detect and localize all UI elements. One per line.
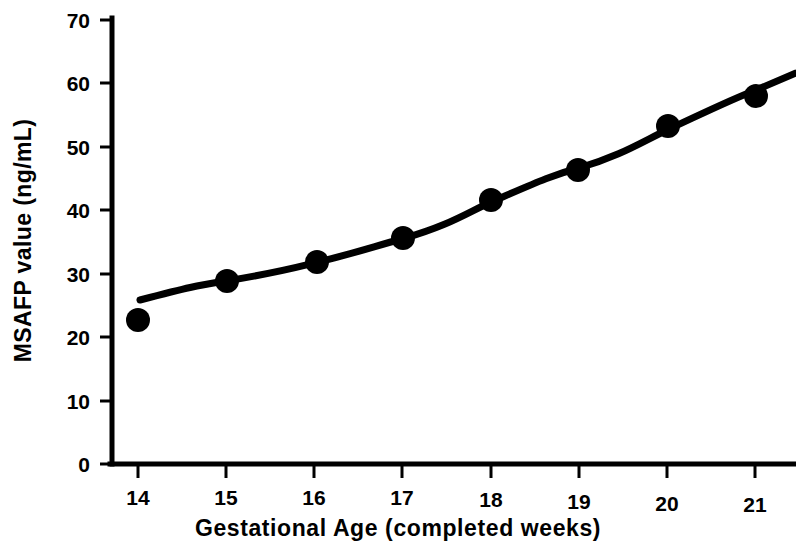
data-point xyxy=(215,269,239,293)
y-tick-label-20: 20 xyxy=(40,327,90,348)
axis-spines xyxy=(110,18,796,464)
y-tick-label-50: 50 xyxy=(40,137,90,158)
x-tick-label-14: 14 xyxy=(126,487,149,508)
data-point-markers xyxy=(126,84,768,332)
x-tick-label-18: 18 xyxy=(479,489,502,510)
x-tick-label-20: 20 xyxy=(655,493,678,514)
y-tick-label-0: 0 xyxy=(40,454,90,475)
x-tick-label-19: 19 xyxy=(567,491,590,512)
y-tick-label-30: 30 xyxy=(40,264,90,285)
data-point xyxy=(479,188,503,212)
chart-plot-area xyxy=(0,0,796,548)
fitted-curve xyxy=(140,73,796,300)
data-point xyxy=(305,250,329,274)
data-point xyxy=(391,226,415,250)
y-tick-label-70: 70 xyxy=(40,10,90,31)
x-tick-label-16: 16 xyxy=(302,487,325,508)
x-tick-label-15: 15 xyxy=(214,487,237,508)
y-tick-label-10: 10 xyxy=(40,391,90,412)
chart-figure: 70 60 50 40 30 20 10 0 14 15 16 17 18 19… xyxy=(0,0,796,548)
data-point xyxy=(126,308,150,332)
x-axis-title: Gestational Age (completed weeks) xyxy=(0,515,796,542)
data-point xyxy=(744,84,768,108)
y-tick-label-60: 60 xyxy=(40,73,90,94)
y-tick-label-40: 40 xyxy=(40,200,90,221)
data-point xyxy=(656,114,680,138)
y-axis-title: MSAFP value (ng/mL) xyxy=(11,118,38,362)
y-axis-title-container: MSAFP value (ng/mL) xyxy=(2,0,46,480)
x-tick-label-21: 21 xyxy=(743,494,766,515)
x-tick-label-17: 17 xyxy=(390,487,413,508)
data-point xyxy=(566,158,590,182)
